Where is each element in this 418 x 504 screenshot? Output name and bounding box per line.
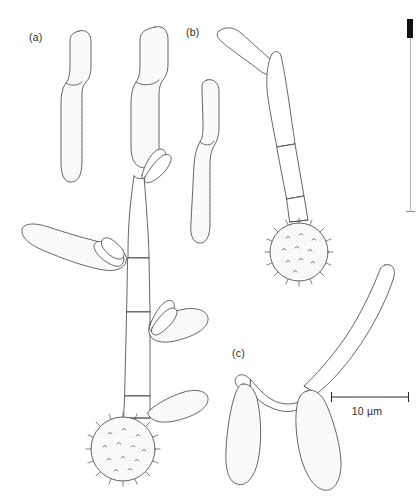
conidium-b2-terminal xyxy=(217,28,275,75)
chlamydospore-a xyxy=(86,412,160,486)
conidium-b1 xyxy=(191,80,219,244)
chlamydospore-b xyxy=(265,218,333,286)
page-edge-marker xyxy=(406,19,415,212)
conidiophore-a-cell-3 xyxy=(125,312,150,396)
conidiophore-b-basal-cell xyxy=(287,196,308,222)
figure-canvas: 10 µm (a) (b) (c) xyxy=(0,0,418,504)
panel-b-drawing xyxy=(191,28,333,286)
conidium-a2 xyxy=(131,27,168,168)
scale-bar-label: 10 µm xyxy=(352,405,382,417)
scale-bar: 10 µm xyxy=(331,392,409,417)
page-edge-block xyxy=(407,19,413,38)
conidiophore-a-apical-cell xyxy=(128,176,149,258)
conidium-c1 xyxy=(226,384,261,485)
conidiophore-b-cell-2 xyxy=(277,144,304,199)
panel-label-b: (b) xyxy=(186,26,199,38)
conidium-c2 xyxy=(296,390,341,490)
conidium-a1 xyxy=(61,30,91,182)
conidiophore-b-apical-cell xyxy=(267,52,295,147)
panel-label-a: (a) xyxy=(29,31,42,43)
hypha-c-main xyxy=(304,265,394,394)
panel-c-drawing xyxy=(226,265,395,491)
panel-a-drawing xyxy=(22,27,208,486)
conidium-a5 xyxy=(148,390,208,422)
conidiophore-a-cell-2 xyxy=(127,258,150,312)
panel-label-c: (c) xyxy=(232,347,245,359)
figure-drawing: 10 µm (a) (b) (c) xyxy=(0,0,418,504)
